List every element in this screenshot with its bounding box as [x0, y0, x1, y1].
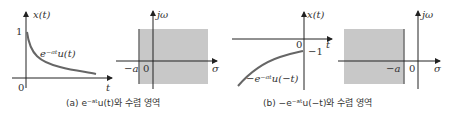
curve-label: −e⁻ᵃᵗu(−t): [246, 73, 299, 84]
origin-label: 0: [143, 63, 149, 74]
roc-shaded-region: [139, 29, 208, 84]
x-axis-label: x(t): [307, 9, 325, 20]
curve-label: e⁻ᵃᵗu(t): [40, 48, 76, 59]
x-axis-label: x(t): [33, 9, 51, 20]
origin-label: 0: [18, 82, 24, 93]
caption-b: (b) −e⁻ᵃᵗu(−t)와 수렴 영역: [263, 96, 372, 109]
origin-label: 0: [296, 39, 302, 50]
minus-a-label: −a: [124, 63, 138, 74]
jw-label: jω: [420, 9, 433, 20]
origin-label: 0: [409, 63, 415, 74]
sigma-label: σ: [434, 63, 442, 74]
y-tick-minus-1: −1: [308, 46, 323, 57]
panel-b-roc-plot: jω −a 0 σ: [338, 9, 442, 89]
y-tick-1: 1: [16, 26, 22, 37]
panel-a-time-plot: x(t) 1 0 t e⁻ᵃᵗu(t): [12, 9, 112, 93]
caption-a: (a) e⁻ᵃᵗu(t)와 수렴 영역: [66, 96, 160, 109]
panel-b-time-plot: x(t) 0 t −1 −e⁻ᵃᵗu(−t): [232, 9, 332, 90]
t-axis-label: t: [106, 82, 111, 93]
roc-shaded-region: [344, 29, 404, 84]
jw-label: jω: [155, 9, 168, 20]
panel-a-roc-plot: jω −a 0 σ: [116, 9, 220, 89]
minus-a-label: −a: [386, 63, 400, 74]
t-axis-label: t: [326, 39, 331, 50]
sigma-label: σ: [212, 63, 220, 74]
